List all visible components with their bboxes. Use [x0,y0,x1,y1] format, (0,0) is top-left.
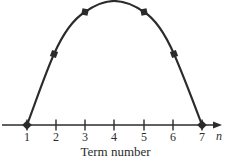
x-tick-label-4: 4 [106,131,122,143]
x-axis-variable-label: n [216,130,222,142]
parabola-curve [27,1,202,125]
data-point-n5 [140,8,148,16]
data-point-n7 [197,120,207,130]
x-tick-label-5: 5 [136,131,152,143]
x-tick-label-6: 6 [165,131,181,143]
x-tick-label-1: 1 [19,131,35,143]
data-point-markers [22,8,207,130]
data-point-n2 [50,50,58,58]
x-axis-arrowhead [213,121,222,128]
data-point-n1 [22,120,32,130]
data-point-n3 [81,8,89,16]
x-tick-label-7: 7 [194,131,210,143]
x-axis [2,121,222,128]
x-axis-caption: Term number [0,145,231,159]
parabola-chart-figure: 1 2 3 4 5 6 7 n Term number [0,0,231,162]
data-point-n6 [170,50,178,58]
x-tick-label-3: 3 [77,131,93,143]
x-tick-label-2: 2 [48,131,64,143]
